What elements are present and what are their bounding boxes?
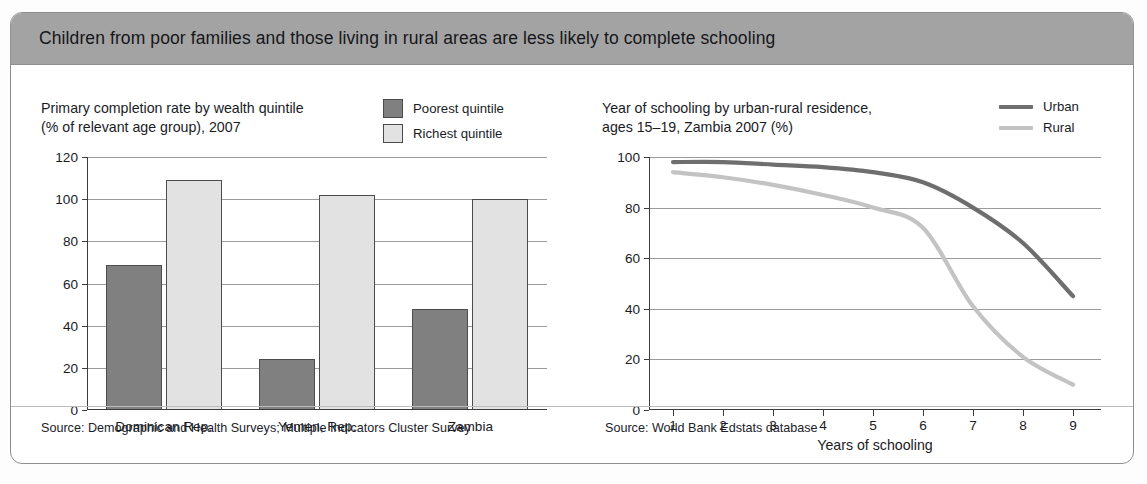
source-right: Source: World Bank Edstats database (605, 421, 818, 435)
y-tick-label: 120 (55, 150, 78, 165)
y-tick-label: 80 (63, 234, 78, 249)
line-chart-legend: Urban Rural (999, 99, 1079, 135)
legend-label-richest: Richest quintile (413, 126, 502, 141)
y-tick-label: 60 (63, 276, 78, 291)
line-chart-title: Year of schooling by urban-rural residen… (602, 99, 872, 137)
legend-swatch-poorest (383, 99, 403, 118)
line-chart-plot-area: 020406080100 123456789 Years of schoolin… (649, 157, 1101, 410)
legend-item-poorest: Poorest quintile (383, 99, 504, 118)
legend-swatch-rural (999, 126, 1033, 130)
line-chart-x-tick-labels: 123456789 (649, 157, 1101, 410)
line-chart-panel: Year of schooling by urban-rural residen… (576, 65, 1134, 409)
y-tick-label: 40 (625, 301, 640, 316)
y-tick-label: 20 (63, 360, 78, 375)
legend-item-urban: Urban (999, 99, 1079, 114)
bar-chart-category-labels: Dominican Rep.Yemen, Rep.Zambia (87, 157, 547, 410)
legend-swatch-urban (999, 105, 1033, 109)
bar-chart-plot-area: 020406080100120 Dominican Rep.Yemen, Rep… (87, 157, 547, 410)
figure-root: Children from poor families and those li… (0, 0, 1147, 484)
y-tick-label: 40 (63, 318, 78, 333)
y-tick-label: 60 (625, 251, 640, 266)
bar-chart-title-line2: (% of relevant age group), 2007 (41, 118, 304, 137)
y-tick-label: 80 (625, 200, 640, 215)
figure-header: Children from poor families and those li… (11, 13, 1133, 65)
bar-chart-panel: Primary completion rate by wealth quinti… (11, 65, 576, 409)
line-chart-title-line2: ages 15–19, Zambia 2007 (%) (602, 118, 872, 137)
y-tick-label: 100 (55, 192, 78, 207)
bar-chart-title-line1: Primary completion rate by wealth quinti… (41, 99, 304, 118)
source-left: Source: Demographic and Health Surveys; … (41, 421, 471, 435)
legend-item-richest: Richest quintile (383, 124, 504, 143)
bar-chart-legend: Poorest quintile Richest quintile (383, 99, 504, 143)
y-tick-label: 20 (625, 352, 640, 367)
legend-label-urban: Urban (1043, 99, 1079, 114)
bar-chart-title: Primary completion rate by wealth quinti… (41, 99, 304, 137)
figure-panel: Children from poor families and those li… (10, 12, 1134, 464)
legend-label-rural: Rural (1043, 120, 1075, 135)
y-tick-label: 100 (617, 150, 640, 165)
figure-title: Children from poor families and those li… (39, 28, 775, 49)
legend-swatch-richest (383, 124, 403, 143)
legend-item-rural: Rural (999, 120, 1079, 135)
panels-container: Primary completion rate by wealth quinti… (11, 65, 1133, 409)
source-bar: Source: Demographic and Health Surveys; … (11, 406, 1133, 463)
line-chart-title-line1: Year of schooling by urban-rural residen… (602, 99, 872, 118)
legend-label-poorest: Poorest quintile (413, 101, 504, 116)
